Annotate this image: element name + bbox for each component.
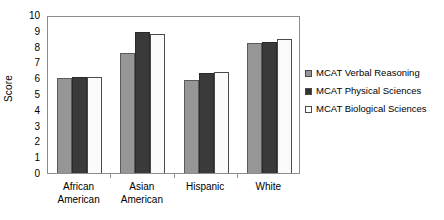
x-axis-label-line: White: [256, 180, 282, 193]
bar-group-hispanic: [182, 17, 230, 173]
legend-swatch-verbal-reasoning: [305, 70, 312, 77]
y-axis-tick-0: 0: [34, 169, 40, 179]
y-axis-tick-7: 7: [34, 58, 40, 68]
bar-white-series-1: [262, 42, 277, 173]
bar-african-american-series-0: [57, 78, 72, 173]
chart-legend: MCAT Verbal ReasoningMCAT Physical Scien…: [305, 66, 441, 120]
bar-asian-american-series-0: [120, 53, 135, 173]
x-axis-label-line: American: [121, 193, 163, 206]
y-axis-tick-2: 2: [34, 137, 40, 147]
x-axis-tick-marks: [47, 174, 300, 179]
bar-hispanic-series-2: [214, 72, 229, 173]
bar-white-series-2: [277, 39, 292, 173]
mcat-score-bar-chart: Score 012345678910 AfricanAmericanAsianA…: [0, 0, 444, 220]
x-axis-label-line: Asian: [121, 180, 163, 193]
y-axis-tick-4: 4: [34, 106, 40, 116]
x-axis-tick-mark-2: [174, 174, 175, 178]
y-axis-tick-labels: 012345678910: [18, 16, 44, 174]
y-axis-tick-5: 5: [34, 90, 40, 100]
legend-swatch-physical-sciences: [305, 88, 312, 95]
x-axis-label-hispanic: Hispanic: [186, 180, 224, 193]
bar-african-american-series-2: [87, 77, 102, 173]
x-axis-category-labels: AfricanAmericanAsianAmericanHispanicWhit…: [47, 180, 300, 216]
x-axis-label-line: Hispanic: [186, 180, 224, 193]
legend-label-1: MCAT Physical Sciences: [316, 86, 421, 96]
y-axis-title: Score: [0, 0, 18, 176]
y-axis-tick-8: 8: [34, 43, 40, 53]
legend-item-2[interactable]: MCAT Biological Sciences: [305, 102, 441, 116]
x-axis-tick-mark-1: [110, 174, 111, 178]
bar-group-asian-american: [119, 17, 167, 173]
bar-african-american-series-1: [72, 77, 87, 173]
bar-hispanic-series-0: [184, 80, 199, 173]
x-axis-label-line: African: [58, 180, 100, 193]
y-axis-tick-1: 1: [34, 153, 40, 163]
x-axis-label-african-american: AfricanAmerican: [58, 180, 100, 206]
y-axis-tick-3: 3: [34, 122, 40, 132]
x-axis-label-line: American: [58, 193, 100, 206]
bar-white-series-0: [247, 43, 262, 173]
y-axis-title-label: Score: [4, 74, 15, 101]
x-axis-label-asian-american: AsianAmerican: [121, 180, 163, 206]
y-axis-tick-9: 9: [34, 27, 40, 37]
legend-item-0[interactable]: MCAT Verbal Reasoning: [305, 66, 441, 80]
y-axis-tick-6: 6: [34, 74, 40, 84]
y-axis-tick-10: 10: [29, 11, 40, 21]
bar-asian-american-series-2: [150, 34, 165, 173]
bar-asian-american-series-1: [135, 32, 150, 173]
legend-item-1[interactable]: MCAT Physical Sciences: [305, 84, 441, 98]
legend-label-2: MCAT Biological Sciences: [316, 104, 427, 114]
plot-area: [47, 16, 300, 174]
legend-swatch-biological-sciences: [305, 106, 312, 113]
plot-inner: [48, 17, 299, 173]
legend-label-0: MCAT Verbal Reasoning: [316, 68, 420, 78]
bar-hispanic-series-1: [199, 73, 214, 173]
x-axis-label-white: White: [256, 180, 282, 193]
bar-group-white: [245, 17, 293, 173]
x-axis-tick-mark-3: [237, 174, 238, 178]
bar-group-african-american: [56, 17, 104, 173]
